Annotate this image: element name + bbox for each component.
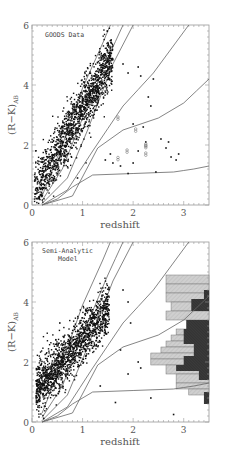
ytick-label: 2 [23, 141, 29, 151]
ytick-label: 4 [23, 298, 29, 308]
xtick-label: 2 [130, 425, 136, 435]
axis-ticks [32, 25, 209, 205]
figure: 6 4 2 0 0 1 2 3 redshift (R−K)AB GOODS D… [0, 0, 250, 466]
xtick-label: 0 [29, 425, 35, 435]
ytick-label: 4 [23, 81, 29, 91]
panel-annotation: GOODS Data [45, 31, 84, 39]
ytick-label: 2 [23, 358, 29, 368]
panel-annotation: Model [58, 255, 78, 263]
ytick-label: 6 [23, 238, 29, 248]
plot-frame [32, 25, 209, 205]
xtick-label: 3 [181, 208, 187, 218]
xtick-label: 1 [80, 208, 86, 218]
top-panel: 6 4 2 0 0 1 2 3 redshift (R−K)AB GOODS D… [6, 21, 209, 230]
svg-text:(R−K)AB: (R−K)AB [6, 94, 19, 135]
panel-annotation: Semi-Analytic [42, 247, 93, 255]
evolution-tracks [42, 25, 209, 205]
svg-text:(R−K)AB: (R−K)AB [6, 311, 19, 352]
xtick-label: 0 [29, 208, 35, 218]
xtick-label: 2 [130, 208, 136, 218]
x-axis-label: redshift [100, 219, 140, 230]
y-axis-label: (R−K)AB [6, 311, 19, 352]
ytick-label: 6 [23, 21, 29, 31]
y-axis-label: (R−K)AB [6, 94, 19, 135]
scatter-points [34, 28, 180, 205]
scatter-points [35, 278, 174, 420]
xtick-label: 1 [80, 425, 86, 435]
x-axis-label: redshift [100, 436, 140, 447]
bottom-panel: 6 4 2 0 0 1 2 3 redshift (R−K)AB Semi-An… [6, 238, 209, 447]
open-markers [117, 116, 147, 161]
xtick-label: 3 [181, 425, 187, 435]
